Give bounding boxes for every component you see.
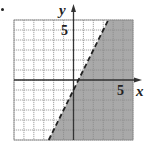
y-tick-label-5: 5 — [61, 24, 68, 38]
x-axis-label: x — [136, 84, 144, 99]
inequality-graph — [0, 0, 146, 147]
y-axis-label: y — [59, 3, 66, 18]
x-tick-label-5: 5 — [117, 84, 124, 98]
